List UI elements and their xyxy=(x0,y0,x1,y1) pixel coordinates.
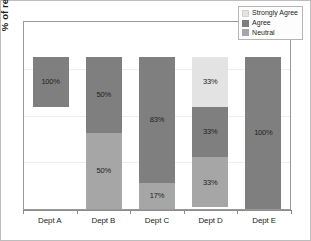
legend-item-label: Strongly Agree xyxy=(252,9,298,18)
bar-segment-label: 50% xyxy=(97,91,111,99)
bar-segment-label: 33% xyxy=(203,78,217,86)
bar-segment-label: 33% xyxy=(203,128,217,136)
x-axis-tick xyxy=(237,210,238,214)
bar-segment-label: 50% xyxy=(97,167,111,175)
bar-segment-label: 100% xyxy=(254,129,272,137)
x-axis-label: Dept B xyxy=(77,216,130,225)
bar-stack: 33%33%33% xyxy=(192,57,228,209)
chart-figure: % of respondents 100%50%50%83%17%33%33%3… xyxy=(0,0,311,241)
bar-segment-label: 83% xyxy=(150,116,164,124)
bar-segment[interactable]: 33% xyxy=(192,157,228,207)
x-axis-tick xyxy=(130,210,131,214)
chart-legend: Strongly AgreeAgreeNeutral xyxy=(238,6,303,40)
bar-column[interactable]: 50%50% xyxy=(78,22,130,209)
bar-segment[interactable]: 83% xyxy=(139,57,175,183)
x-axis-ticks xyxy=(23,210,291,214)
bar-stack: 83%17% xyxy=(139,57,175,209)
bar-segment[interactable]: 100% xyxy=(245,57,281,209)
legend-swatch-icon xyxy=(242,29,249,36)
bar-segment[interactable]: 33% xyxy=(192,107,228,157)
bar-segment-label: 17% xyxy=(150,192,164,200)
legend-swatch-icon xyxy=(242,10,249,17)
bar-segment[interactable]: 50% xyxy=(86,133,122,209)
bar-series-container: 100%50%50%83%17%33%33%33%100% xyxy=(24,22,290,209)
bar-column[interactable]: 33%33%33% xyxy=(184,22,236,209)
bar-stack: 100% xyxy=(245,57,281,209)
bar-stack: 50%50% xyxy=(86,57,122,209)
bar-column[interactable]: 100% xyxy=(237,22,289,209)
x-axis-tick xyxy=(77,210,78,214)
bar-column[interactable]: 100% xyxy=(25,22,77,209)
x-axis-tick xyxy=(291,210,292,214)
bar-segment-label: 100% xyxy=(41,78,59,86)
y-axis-title: % of respondents xyxy=(0,0,10,53)
x-axis-tick xyxy=(23,210,24,214)
plot-area: 100%50%50%83%17%33%33%33%100% xyxy=(23,21,291,210)
bar-segment[interactable]: 17% xyxy=(139,183,175,209)
x-axis-labels: Dept ADept BDept CDept DDept E xyxy=(23,216,291,225)
legend-item-label: Neutral xyxy=(252,29,275,38)
x-axis-label: Dept C xyxy=(131,216,184,225)
x-axis-label: Dept E xyxy=(238,216,291,225)
legend-item[interactable]: Strongly Agree xyxy=(242,9,298,18)
bar-segment[interactable]: 100% xyxy=(33,57,69,107)
x-axis-label: Dept A xyxy=(24,216,77,225)
bar-segment-label: 33% xyxy=(203,179,217,187)
x-axis-label: Dept D xyxy=(184,216,237,225)
bar-stack: 100% xyxy=(33,57,69,209)
legend-item[interactable]: Neutral xyxy=(242,29,298,38)
bar-column[interactable]: 83%17% xyxy=(131,22,183,209)
x-axis-tick xyxy=(184,210,185,214)
legend-swatch-icon xyxy=(242,20,249,27)
legend-item-label: Agree xyxy=(252,19,271,28)
legend-item[interactable]: Agree xyxy=(242,19,298,28)
bar-segment[interactable]: 50% xyxy=(86,57,122,133)
bar-segment[interactable]: 33% xyxy=(192,57,228,107)
